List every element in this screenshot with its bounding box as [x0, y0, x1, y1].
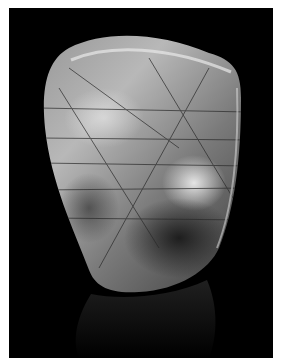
- stone-photo: [9, 8, 273, 358]
- quartz-stone-illustration: [9, 8, 273, 358]
